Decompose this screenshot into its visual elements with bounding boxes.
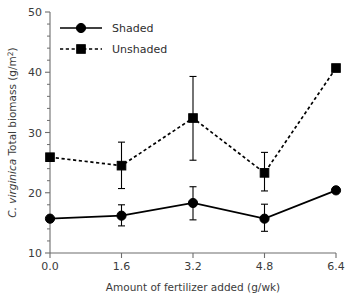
y-tick-label: 30 <box>28 127 42 140</box>
legend-marker <box>77 45 86 54</box>
data-point-marker <box>260 169 269 178</box>
data-point-marker <box>117 161 126 170</box>
y-tick-label: 50 <box>28 6 42 19</box>
x-tick-label: 4.8 <box>256 260 274 273</box>
y-tick-label: 40 <box>28 66 42 79</box>
data-point-marker <box>45 214 54 223</box>
y-axis-title-species: C. virginica <box>6 159 18 218</box>
data-point-marker <box>332 64 341 73</box>
legend-marker <box>76 23 85 32</box>
y-axis-title-measure: Total biomass (g/m <box>6 56 18 159</box>
figure-container: 10203040500.01.63.24.86.4 ShadedUnshaded… <box>0 0 356 300</box>
data-point-marker <box>189 114 198 123</box>
chart-legend: ShadedUnshaded <box>60 22 167 56</box>
x-axis-title: Amount of fertilizer added (g/wk) <box>106 281 280 293</box>
legend-label: Shaded <box>112 22 153 35</box>
data-point-marker <box>188 198 197 207</box>
data-series-layer <box>45 64 340 232</box>
x-tick-label: 0.0 <box>41 260 59 273</box>
x-tick-label: 1.6 <box>113 260 131 273</box>
data-point-marker <box>46 153 55 162</box>
data-point-marker <box>260 214 269 223</box>
legend-item-shaded: Shaded <box>60 22 153 35</box>
y-tick-label: 20 <box>28 187 42 200</box>
legend-label: Unshaded <box>112 43 167 56</box>
series-shaded <box>45 186 340 232</box>
y-tick-label: 10 <box>28 247 42 260</box>
legend-item-unshaded: Unshaded <box>60 43 167 56</box>
series-unshaded <box>46 64 341 191</box>
data-point-marker <box>331 186 340 195</box>
biomass-line-chart: 10203040500.01.63.24.86.4 ShadedUnshaded… <box>0 0 356 300</box>
y-axis-title: C. virginica Total biomass (g/m2) <box>6 47 18 217</box>
x-tick-label: 3.2 <box>184 260 202 273</box>
axes-layer: 10203040500.01.63.24.86.4 <box>28 6 345 273</box>
y-axis-title-tail: ) <box>6 47 18 51</box>
x-tick-label: 6.4 <box>327 260 345 273</box>
data-point-marker <box>117 211 126 220</box>
